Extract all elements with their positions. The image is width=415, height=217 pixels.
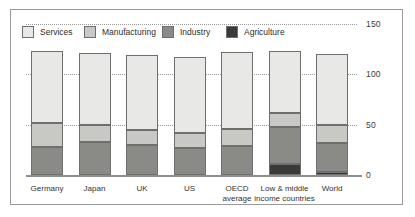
bar-segment-manufacturing[interactable] [269,113,301,127]
legend-item-manufacturing[interactable]: Manufacturing [84,26,156,38]
bar-segment-manufacturing[interactable] [126,130,158,145]
legend-swatch-icon [226,26,238,38]
x-axis-label-world: World [295,184,369,194]
legend-swatch-icon [162,26,174,38]
y-tick-label-50: 50 [366,120,376,130]
bar-segment-industry[interactable] [174,148,206,175]
legend-label: Manufacturing [102,27,156,37]
bar-segment-manufacturing[interactable] [174,133,206,148]
bar-segment-services[interactable] [221,52,253,129]
y-tick-label-100: 100 [366,69,381,79]
bar-segment-manufacturing[interactable] [221,129,253,146]
bar-segment-industry[interactable] [316,143,348,172]
bar-segment-industry[interactable] [126,145,158,175]
bar-segment-services[interactable] [316,54,348,124]
bar-segment-services[interactable] [126,55,158,129]
bar-stack[interactable] [316,0,348,175]
bar-segment-services[interactable] [79,53,111,124]
legend-item-services[interactable]: Services [22,26,73,38]
legend-label: Agriculture [244,27,285,37]
x-label-line: World [295,184,369,194]
legend-label: Services [40,27,73,37]
bar-segment-manufacturing[interactable] [31,123,63,147]
y-tick-label-150: 150 [366,19,381,29]
legend-item-agriculture[interactable]: Agriculture [226,26,285,38]
x-label-line: income countries [248,194,322,204]
bar-segment-manufacturing[interactable] [79,125,111,142]
legend-label: Industry [180,27,210,37]
bar-segment-agriculture[interactable] [269,164,301,175]
legend-item-industry[interactable]: Industry [162,26,210,38]
bar-segment-industry[interactable] [79,142,111,175]
bar-segment-industry[interactable] [221,146,253,175]
legend-swatch-icon [22,26,34,38]
stacked-bar-chart: 050100150 GermanyJapanUKUSOECDaverageLow… [0,0,415,217]
bar-segment-industry[interactable] [31,147,63,175]
x-axis-line [26,175,362,177]
bar-segment-services[interactable] [269,51,301,112]
bar-segment-industry[interactable] [269,127,301,164]
y-tick-label-0: 0 [366,170,371,180]
bar-segment-services[interactable] [174,57,206,133]
legend-swatch-icon [84,26,96,38]
bar-segment-services[interactable] [31,51,63,122]
bar-segment-manufacturing[interactable] [316,125,348,143]
bar-segment-agriculture[interactable] [316,172,348,175]
